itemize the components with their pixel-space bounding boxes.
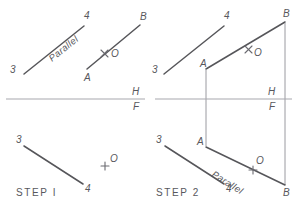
step2-front-label-3: 3 (156, 134, 162, 145)
step1-label-F: F (133, 101, 140, 112)
step2-top-label-B: B (283, 8, 290, 19)
step2-label-H: H (268, 86, 276, 97)
step1-front-point-O-marker (101, 162, 109, 170)
step1-caption: STEP I (16, 187, 57, 198)
step1-front-label-3: 3 (16, 134, 22, 145)
step2-front-label-B: B (283, 187, 290, 198)
step2-front-point-O-marker (249, 166, 257, 174)
step2-top-label-3: 3 (152, 64, 158, 75)
step1-top-view: 3 4 A B O Parallel (10, 10, 147, 83)
step2-label-F: F (269, 101, 276, 112)
step2-top-label-A: A (199, 58, 207, 69)
step1-top-label-4: 4 (84, 10, 90, 21)
step2-top-line-3-4 (164, 26, 224, 74)
technical-drawing-canvas: 3 4 A B O Parallel H F 3 4 (0, 0, 295, 208)
step1-top-point-O-marker (101, 50, 108, 57)
step2-caption: STEP 2 (156, 187, 200, 198)
step2-top-line-A-B (206, 22, 285, 69)
step1-front-line-3-4 (24, 146, 83, 184)
step2-reference-line-group: H F (155, 86, 292, 112)
step1-parallel-annotation: Parallel (46, 33, 80, 64)
step2-front-label-A: A (196, 136, 204, 147)
orthographic-projection-figure: 3 4 A B O Parallel H F 3 4 (0, 0, 295, 208)
step2-front-label-O: O (256, 155, 264, 166)
step1-top-line-A-B (87, 25, 140, 69)
step2-top-point-O-marker (245, 46, 252, 53)
step2-top-view: 3 4 A B O (152, 8, 290, 75)
step1-front-label-O: O (110, 153, 118, 164)
step1-reference-line-group: H F (6, 86, 145, 112)
step1-front-label-4: 4 (85, 183, 91, 194)
step2-top-label-4: 4 (224, 10, 230, 21)
step1-front-view: 3 4 O (16, 134, 118, 194)
step1-top-label-B: B (140, 11, 147, 22)
step1-top-label-A: A (83, 72, 91, 83)
step1-label-H: H (132, 86, 140, 97)
step1-top-label-3: 3 (10, 64, 16, 75)
step1-top-label-O: O (111, 48, 119, 59)
step2-top-label-O: O (254, 47, 262, 58)
